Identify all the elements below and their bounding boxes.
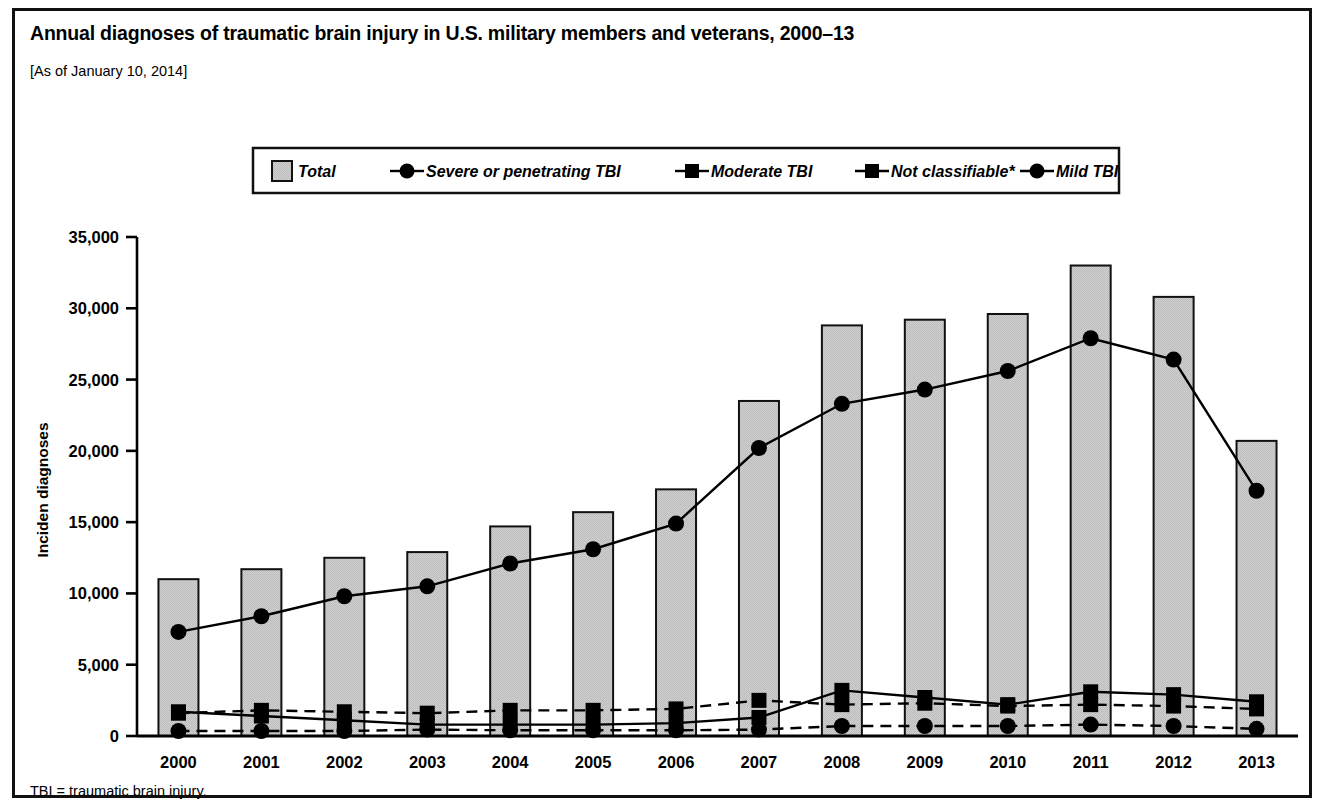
data-point-marker xyxy=(917,718,933,734)
bar-series-total xyxy=(158,266,1276,736)
y-axis-tick-label: 35,000 xyxy=(69,228,119,246)
data-point-marker xyxy=(1083,684,1098,699)
legend-marker-square xyxy=(685,164,699,178)
y-axis-tick-label: 10,000 xyxy=(69,584,119,602)
x-axis-tick-label: 2008 xyxy=(824,753,861,771)
data-point-marker xyxy=(253,608,269,624)
legend-label: Mild TBI xyxy=(1056,163,1119,180)
data-point-marker xyxy=(917,382,933,398)
data-point-marker xyxy=(834,683,849,698)
legend-marker-square xyxy=(865,164,879,178)
x-axis-tick-label: 2013 xyxy=(1238,753,1275,771)
data-point-marker xyxy=(1166,718,1182,734)
x-axis-tick-label: 2010 xyxy=(989,753,1026,771)
x-axis-tick-label: 2007 xyxy=(741,753,778,771)
legend-marker-circle xyxy=(400,164,415,179)
y-axis-title: Inciden diagnoses xyxy=(34,422,51,557)
legend-swatch xyxy=(272,161,292,181)
x-axis-tick-label: 2001 xyxy=(243,753,280,771)
data-point-marker xyxy=(1166,699,1181,714)
data-point-marker xyxy=(1249,483,1265,499)
data-point-marker xyxy=(1000,699,1015,714)
data-point-marker xyxy=(170,624,186,640)
legend-label: Severe or penetrating TBI xyxy=(426,163,621,180)
footnote-text: TBI = traumatic brain injury. xyxy=(30,783,207,799)
data-point-marker xyxy=(1166,352,1182,368)
data-point-marker xyxy=(336,588,352,604)
y-axis-tick-label: 20,000 xyxy=(69,442,119,460)
data-point-marker xyxy=(254,703,269,718)
data-point-marker xyxy=(1083,697,1098,712)
data-point-marker xyxy=(1000,363,1016,379)
data-point-marker xyxy=(586,703,601,718)
x-axis-tick-label: 2009 xyxy=(906,753,943,771)
data-point-marker xyxy=(419,578,435,594)
x-axis-tick-label: 2005 xyxy=(575,753,612,771)
y-axis-tick-label: 25,000 xyxy=(69,371,119,389)
data-point-marker xyxy=(834,697,849,712)
data-point-marker xyxy=(585,541,601,557)
y-axis-tick-label: 0 xyxy=(110,727,119,745)
chart-canvas: TotalSevere or penetrating TBIModerate T… xyxy=(0,0,1324,812)
data-point-marker xyxy=(337,704,352,719)
data-point-marker xyxy=(171,706,186,721)
chart-legend: TotalSevere or penetrating TBIModerate T… xyxy=(253,148,1119,193)
data-point-marker xyxy=(503,703,518,718)
data-point-marker xyxy=(751,693,766,708)
data-point-marker xyxy=(668,516,684,532)
data-point-marker xyxy=(1249,721,1265,737)
data-point-marker xyxy=(1083,717,1099,733)
figure-page: Annual diagnoses of traumatic brain inju… xyxy=(0,0,1324,812)
data-point-marker xyxy=(751,440,767,456)
legend-item-total: Total xyxy=(272,161,336,181)
x-axis-tick-label: 2002 xyxy=(326,753,363,771)
legend-item-mild-tbi: Mild TBI xyxy=(1020,163,1119,180)
x-axis-tick-label: 2004 xyxy=(492,753,530,771)
bar xyxy=(822,325,862,736)
x-axis-tick-label: 2006 xyxy=(658,753,695,771)
data-point-marker xyxy=(917,696,932,711)
plot-area: 05,00010,00015,00020,00025,00030,00035,0… xyxy=(34,228,1298,771)
data-point-marker xyxy=(1249,701,1264,716)
data-point-marker xyxy=(502,555,518,571)
y-axis: 05,00010,00015,00020,00025,00030,00035,0… xyxy=(69,228,137,745)
chart-footnote: TBI = traumatic brain injury. xyxy=(30,783,207,799)
data-point-marker xyxy=(669,701,684,716)
y-axis-tick-label: 5,000 xyxy=(78,656,119,674)
data-point-marker xyxy=(834,718,850,734)
x-axis-tick-label: 2003 xyxy=(409,753,446,771)
legend-marker-circle xyxy=(1030,164,1045,179)
x-axis-tick-label: 2011 xyxy=(1073,753,1109,771)
y-axis-tick-label: 15,000 xyxy=(69,513,119,531)
legend-label: Moderate TBI xyxy=(711,163,813,180)
legend-item-moderate-tbi: Moderate TBI xyxy=(675,163,813,180)
data-point-marker xyxy=(420,706,435,721)
x-axis-tick-label: 2012 xyxy=(1155,753,1192,771)
y-axis-tick-label: 30,000 xyxy=(69,299,119,317)
legend-label: Total xyxy=(298,163,336,180)
legend-label: Not classifiable* xyxy=(891,163,1015,180)
data-point-marker xyxy=(1000,718,1016,734)
x-axis: 2000200120022003200420052006200720082009… xyxy=(137,736,1298,771)
data-point-marker xyxy=(1083,330,1099,346)
data-point-marker xyxy=(834,396,850,412)
x-axis-tick-label: 2000 xyxy=(160,753,197,771)
